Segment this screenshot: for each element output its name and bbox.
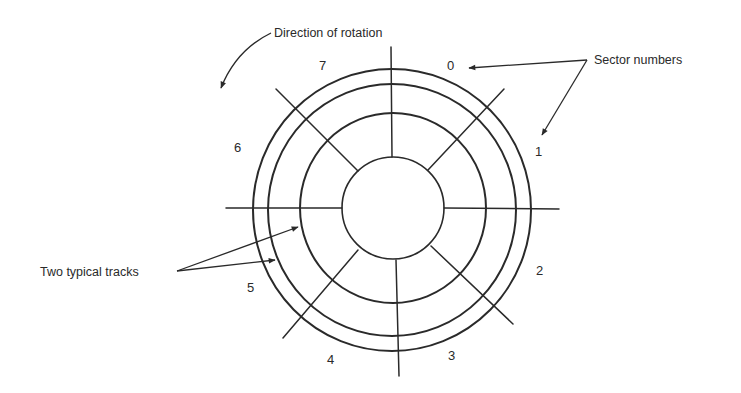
sector-label-2: 2 — [536, 263, 543, 278]
spoke-upper-right — [428, 89, 504, 170]
sector-dividers — [226, 47, 559, 376]
sector-labels: 0 1 2 3 4 5 6 7 — [234, 58, 543, 367]
sector-label-1: 1 — [535, 144, 542, 159]
sector-label-7: 7 — [319, 58, 326, 73]
sector-label-5: 5 — [247, 280, 254, 295]
sector-numbers-label: Sector numbers — [594, 53, 682, 67]
curved-arrow-icon — [221, 33, 271, 88]
tracks-label: Two typical tracks — [40, 265, 139, 279]
spoke-bottom — [396, 260, 399, 376]
sector-label-0: 0 — [447, 58, 454, 73]
spoke-upper-left — [276, 89, 358, 171]
disk-diagram: Direction of rotation Sector numbers Two… — [0, 0, 741, 393]
spoke-right — [444, 208, 559, 209]
sector-label-4: 4 — [327, 352, 334, 367]
hub-circle — [342, 157, 444, 259]
sector-label-6: 6 — [234, 140, 241, 155]
sector-label-3: 3 — [448, 348, 455, 363]
spoke-lower-left — [283, 250, 358, 338]
arrow-to-sector-0-icon — [469, 60, 587, 68]
arrow-to-sector-1-icon — [542, 60, 587, 135]
spoke-top — [391, 47, 392, 157]
rotation-label: Direction of rotation — [274, 26, 382, 40]
rotation-annotation: Direction of rotation — [221, 26, 382, 88]
